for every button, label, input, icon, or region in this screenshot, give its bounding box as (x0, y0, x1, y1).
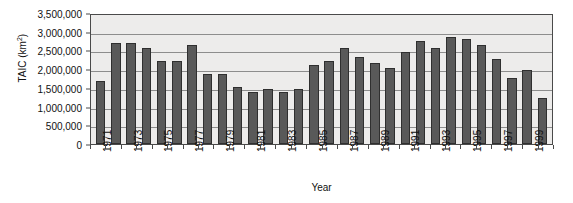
x-axis-tick-label: 1995 (472, 130, 483, 152)
x-axis-tick-label: 1971 (102, 130, 113, 152)
bar-slot (200, 15, 215, 144)
bar-slot (474, 15, 489, 144)
bar-slot (413, 15, 428, 144)
bar-slot (459, 15, 474, 144)
y-axis-tick-label: 2,500,000 (38, 46, 83, 57)
bar-slot (108, 15, 123, 144)
x-axis-tick-mark (90, 145, 91, 149)
x-axis-tick-mark (275, 145, 276, 149)
x-axis-tick-label: 1989 (380, 130, 391, 152)
bar-slot (520, 15, 535, 144)
plot-area (90, 14, 553, 145)
x-axis-tick-label: 1977 (194, 130, 205, 152)
x-axis-tick-mark (337, 145, 338, 149)
x-axis-tick-label: 1979 (225, 130, 236, 152)
x-axis-tick-mark (167, 145, 168, 149)
bar-slot (504, 15, 519, 144)
bar-slot (352, 15, 367, 144)
x-axis-tick-label: 1993 (441, 130, 452, 152)
bar-slot (184, 15, 199, 144)
bar-slot (535, 15, 550, 144)
bar (446, 37, 455, 144)
bar-slot (139, 15, 154, 144)
bar-slot (230, 15, 245, 144)
bar-slot (489, 15, 504, 144)
x-axis-title: Year (90, 182, 553, 193)
bar-slot (93, 15, 108, 144)
x-axis-tick-label: 1999 (534, 130, 545, 152)
y-axis-tick-label: 1,000,000 (38, 102, 83, 113)
bar (401, 52, 410, 144)
y-axis-tick-label: 500,000 (46, 121, 82, 132)
x-axis-tick-mark (491, 145, 492, 149)
y-axis-tick-labels: 3,500,0003,000,0002,500,0002,000,0001,50… (8, 10, 86, 146)
x-axis-tick-label: 1981 (256, 130, 267, 152)
x-axis-tick-label: 1985 (318, 130, 329, 152)
x-axis-tick-mark (414, 145, 415, 149)
x-axis-tick-mark (538, 145, 539, 149)
bar-slot (276, 15, 291, 144)
x-axis-tick-mark (445, 145, 446, 149)
x-axis-tick-label: 1997 (503, 130, 514, 152)
x-axis-tick-mark (507, 145, 508, 149)
y-axis-tick-label: 1,500,000 (38, 83, 83, 94)
bar (431, 48, 440, 144)
x-axis-tick-mark (476, 145, 477, 149)
x-axis-tick-label: 1983 (287, 130, 298, 152)
x-axis-tick-mark (121, 145, 122, 149)
bar-slot (398, 15, 413, 144)
x-axis-tick-label: 1991 (410, 130, 421, 152)
x-axis-tick-mark (136, 145, 137, 149)
x-axis: 1971197319751977197919811983198519871989… (90, 145, 553, 203)
bar-slot (322, 15, 337, 144)
x-axis-tick-mark (260, 145, 261, 149)
x-axis-tick-mark (183, 145, 184, 149)
bar-slot (154, 15, 169, 144)
x-axis-tick-mark (399, 145, 400, 149)
x-axis-tick-label: 1975 (163, 130, 174, 152)
x-axis-tick-mark (244, 145, 245, 149)
x-axis-tick-label: 1973 (133, 130, 144, 152)
x-axis-tick-mark (213, 145, 214, 149)
bar-series (91, 15, 552, 144)
bar-slot (245, 15, 260, 144)
bar-chart-figure: TAIC (km2) 3,500,0003,000,0002,500,0002,… (0, 0, 573, 203)
bar-slot (261, 15, 276, 144)
x-axis-tick-mark (198, 145, 199, 149)
bar-slot (215, 15, 230, 144)
x-axis-tick-mark (368, 145, 369, 149)
x-axis-tick-mark (105, 145, 106, 149)
x-axis-tick-mark (229, 145, 230, 149)
bar (340, 48, 349, 144)
x-axis-tick-mark (460, 145, 461, 149)
bar-slot (428, 15, 443, 144)
bar (370, 63, 379, 144)
x-axis-tick-mark (152, 145, 153, 149)
bar (522, 70, 531, 144)
bar (462, 39, 471, 144)
y-axis-tick-label: 2,000,000 (38, 65, 83, 76)
x-axis-tick-mark (352, 145, 353, 149)
bar (416, 41, 425, 144)
bar-slot (337, 15, 352, 144)
bar-slot (123, 15, 138, 144)
y-axis-tick-label: 0 (76, 140, 82, 151)
bar-slot (382, 15, 397, 144)
x-axis-tick-mark (306, 145, 307, 149)
x-axis-tick-mark (291, 145, 292, 149)
x-axis-tick-mark (383, 145, 384, 149)
x-axis-tick-mark (522, 145, 523, 149)
bar (492, 59, 501, 144)
x-axis-tick-label: 1987 (349, 130, 360, 152)
bar-slot (367, 15, 382, 144)
x-axis-tick-mark (430, 145, 431, 149)
y-axis-tick-label: 3,500,000 (38, 9, 83, 20)
x-axis-tick-mark (553, 145, 554, 149)
bar-slot (306, 15, 321, 144)
bar-slot (443, 15, 458, 144)
bar-slot (291, 15, 306, 144)
bar-slot (169, 15, 184, 144)
x-axis-tick-mark (322, 145, 323, 149)
y-axis-tick-label: 3,000,000 (38, 27, 83, 38)
